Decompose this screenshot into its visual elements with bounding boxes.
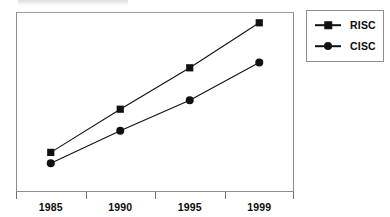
series-line-cisc [51,62,260,163]
legend-entry-cisc[interactable]: CISC [307,36,383,56]
x-axis-tick [293,192,294,199]
legend: RISC CISC [306,10,384,62]
data-point-risc-1990[interactable] [117,106,124,113]
data-point-risc-1995[interactable] [186,64,193,71]
data-point-cisc-1995[interactable] [186,96,194,104]
data-point-risc-1985[interactable] [47,149,54,156]
circle-marker-icon [313,38,343,54]
x-axis-label-1995: 1995 [178,201,202,213]
scan-artifact-strip [18,0,128,7]
legend-label-cisc: CISC [350,40,376,52]
x-axis-label-1990: 1990 [108,201,132,213]
data-point-risc-1999[interactable] [256,19,263,26]
x-axis-label-1985: 1985 [39,201,63,213]
x-axis-tick [16,192,17,199]
performance-line-chart: Performance 1985199019951999 RISC CISC [0,0,390,217]
legend-entry-risc[interactable]: RISC [307,15,383,35]
x-axis-label-1999: 1999 [247,201,271,213]
plot-area [16,12,294,192]
data-point-cisc-1999[interactable] [255,58,263,66]
square-marker-icon [313,17,343,33]
x-axis-tick [155,192,156,199]
data-point-cisc-1985[interactable] [47,159,55,167]
x-axis: 1985199019951999 [16,192,294,217]
legend-label-risc: RISC [350,19,376,31]
data-point-cisc-1990[interactable] [116,127,124,135]
series-line-risc [51,23,260,153]
x-axis-tick [86,192,87,199]
x-axis-tick [225,192,226,199]
